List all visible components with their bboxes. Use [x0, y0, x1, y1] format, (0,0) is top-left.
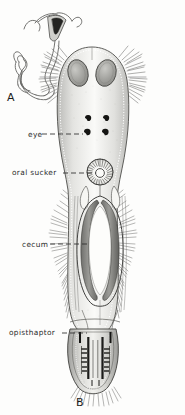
haptor-frame-right	[101, 337, 103, 379]
haptor-frame-left	[87, 337, 89, 379]
panel-letter-b: B	[76, 397, 84, 408]
illustration-artwork	[0, 0, 185, 415]
oral-sucker-aperture	[96, 169, 105, 178]
haptor-anchor-left	[79, 332, 81, 343]
label-cecum: cecum	[22, 241, 48, 248]
label-opisthaptor: opisthaptor	[9, 329, 55, 336]
figure-plate: eye oral sucker cecum opisthaptor A B	[0, 0, 185, 415]
label-oral-sucker: oral sucker	[12, 169, 57, 176]
haptor-anchor-right	[110, 332, 112, 343]
marginal-cilia-body-left	[49, 190, 70, 318]
panel-letter-a: A	[7, 92, 15, 103]
label-eye: eye	[28, 131, 43, 138]
